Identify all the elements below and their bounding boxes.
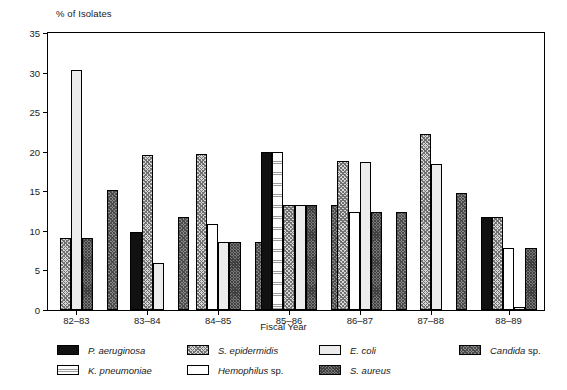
legend-label: Hemophilus sp. (218, 365, 283, 376)
bar-p_aeruginosa-85-86 (261, 152, 272, 310)
y-tick-label: 25 (14, 107, 40, 118)
bar-p_aeruginosa-88-89 (481, 217, 492, 310)
legend-label-suffix: sp. (525, 345, 540, 356)
bars-layer (48, 33, 544, 310)
bar-hemophilus-88-89 (503, 248, 514, 310)
legend-item-candida: Candida sp. (459, 343, 541, 357)
bar-s_epidermidis-84-85 (196, 154, 207, 310)
bar-s_aureus-84-85 (229, 242, 240, 310)
bar-s_epidermidis-85-86 (283, 205, 294, 310)
bar-e_coli-88-89 (514, 307, 525, 310)
legend-swatch (319, 345, 341, 355)
bar-e_coli-84-85 (218, 242, 229, 310)
bar-e_coli-86-87 (360, 162, 371, 310)
bar-candida-83-84 (178, 217, 189, 310)
bar-s_epidermidis-87-88 (420, 134, 431, 310)
legend-item-p-aeruginosa: P. aeruginosa (57, 343, 145, 357)
y-tick-label: 0 (14, 305, 40, 316)
bar-s_epidermidis-86-87 (337, 161, 348, 310)
bar-s_epidermidis-83-84 (142, 155, 153, 310)
legend-swatch (187, 345, 209, 355)
y-tick-label: 10 (14, 225, 40, 236)
y-tick-label: 30 (14, 67, 40, 78)
legend-label: S. aureus (350, 365, 391, 376)
x-axis-title: Fiscal Year (0, 321, 567, 332)
legend-label: K. pneumoniae (88, 365, 152, 376)
bar-s_epidermidis-88-89 (492, 217, 503, 310)
bar-candida-87-88 (456, 193, 467, 310)
legend-item-s-aureus: S. aureus (319, 363, 391, 377)
legend-label: Candida sp. (490, 345, 541, 356)
bar-s_aureus-85-86 (306, 205, 317, 310)
bar-k_pneumoniae-85-86 (272, 152, 283, 310)
legend-label: P. aeruginosa (88, 345, 145, 356)
legend-swatch (319, 365, 341, 375)
bar-s_aureus-82-83 (82, 238, 93, 310)
y-axis-title: % of Isolates (56, 8, 112, 19)
chart-page: % of Isolates 05101520253035 82–8383–848… (0, 0, 567, 390)
legend-item-e-coli: E. coli (319, 343, 376, 357)
y-tick-label: 15 (14, 186, 40, 197)
bar-candida-82-83 (107, 190, 118, 310)
bar-e_coli-87-88 (431, 164, 442, 310)
legend-item-s-epidermidis: S. epidermidis (187, 343, 278, 357)
bar-e_coli-83-84 (153, 263, 164, 310)
legend-label: S. epidermidis (218, 345, 278, 356)
y-tick-label: 5 (14, 265, 40, 276)
chart-legend: P. aeruginosaK. pneumoniaeS. epidermidis… (47, 341, 545, 385)
bar-s_aureus-86-87 (371, 212, 382, 310)
bar-s_aureus-88-89 (525, 248, 536, 310)
legend-label-suffix: sp. (268, 365, 283, 376)
legend-swatch (57, 345, 79, 355)
bar-e_coli-82-83 (71, 70, 82, 310)
y-tick-label: 20 (14, 146, 40, 157)
bar-p_aeruginosa-83-84 (130, 232, 141, 310)
legend-swatch (459, 345, 481, 355)
legend-item-hemophilus: Hemophilus sp. (187, 363, 283, 377)
legend-swatch (187, 365, 209, 375)
bar-candida-86-87 (396, 212, 407, 310)
legend-item-k-pneumoniae: K. pneumoniae (57, 363, 152, 377)
bar-hemophilus-86-87 (349, 212, 360, 310)
y-tick-label: 35 (14, 28, 40, 39)
bar-e_coli-85-86 (295, 205, 306, 310)
bar-hemophilus-84-85 (207, 224, 218, 310)
legend-swatch (57, 365, 79, 375)
y-tick-mark (43, 310, 48, 311)
legend-label: E. coli (350, 345, 376, 356)
bar-s_epidermidis-82-83 (60, 238, 71, 310)
